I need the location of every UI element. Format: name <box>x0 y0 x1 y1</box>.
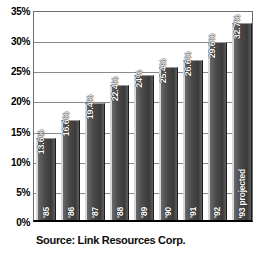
bar-series: '8513.6%'8616.6%'8719.4%'8822.4%'8924%'9… <box>34 12 252 220</box>
y-axis: 0%5%10%15%20%25%30%35% <box>0 0 33 230</box>
bar-value-label: 26.6% <box>183 51 193 76</box>
x-axis-category-label: '89 <box>139 207 149 218</box>
bar-group: '9126.6% <box>183 12 203 220</box>
bar-group: '8719.4% <box>85 12 105 220</box>
x-axis-category-label: '92 <box>212 207 222 218</box>
bar[interactable] <box>85 103 105 220</box>
plot-area: '8513.6%'8616.6%'8719.4%'8822.4%'8924%'9… <box>33 11 253 222</box>
bar-value-label: 13.6% <box>36 130 46 155</box>
x-axis-category-label: '93 projected <box>237 169 247 219</box>
bar-group: '9025.4% <box>159 12 179 220</box>
bar-value-label: 24% <box>134 71 144 88</box>
bar-chart: 0%5%10%15%20%25%30%35% '8513.6%'8616.6%'… <box>0 0 258 253</box>
y-axis-tick-label: 0% <box>0 218 30 227</box>
bar-value-label: 22.4% <box>110 77 120 102</box>
bar[interactable] <box>208 42 228 220</box>
bar-group: '9229.6% <box>208 12 228 220</box>
x-axis-category-label: '88 <box>115 207 125 218</box>
bar-group: '8822.4% <box>110 12 130 220</box>
y-axis-tick-label: 15% <box>0 127 30 136</box>
bar-value-label: 19.4% <box>85 95 95 120</box>
bar[interactable] <box>159 67 179 220</box>
bar-value-label: 25.4% <box>158 59 168 84</box>
x-axis-category-label: '85 <box>41 207 51 218</box>
bar-value-label: 32.7% <box>232 15 242 40</box>
bar[interactable] <box>110 85 130 220</box>
x-axis-category-label: '87 <box>90 207 100 218</box>
bar-value-label: 16.6% <box>61 112 71 137</box>
x-axis-category-label: '86 <box>66 207 76 218</box>
y-axis-tick-label: 20% <box>0 97 30 106</box>
bar[interactable] <box>183 60 203 220</box>
x-axis-category-label: '90 <box>163 207 173 218</box>
y-axis-tick-label: 35% <box>0 7 30 16</box>
bar[interactable] <box>134 75 154 220</box>
source-caption: Source: Link Resources Corp. <box>36 234 185 246</box>
y-axis-tick-label: 25% <box>0 67 30 76</box>
bar-value-label: 29.6% <box>207 33 217 58</box>
bar-group: '93 projected32.7% <box>232 12 252 220</box>
x-axis-category-label: '91 <box>188 207 198 218</box>
bar-group: '8513.6% <box>36 12 56 220</box>
bar-group: '8616.6% <box>61 12 81 220</box>
y-axis-tick-label: 5% <box>0 187 30 196</box>
y-axis-tick-label: 30% <box>0 37 30 46</box>
y-axis-tick-label: 10% <box>0 157 30 166</box>
bar-group: '8924% <box>134 12 154 220</box>
